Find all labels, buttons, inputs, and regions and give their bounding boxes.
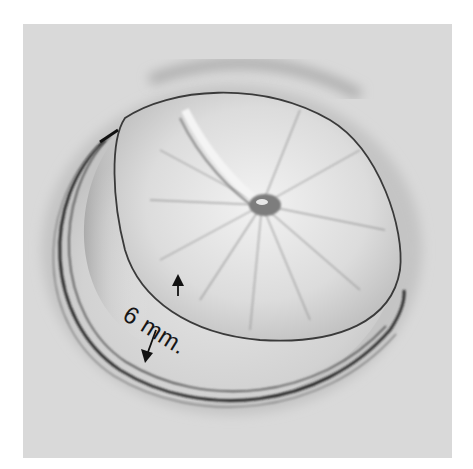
disc-hub <box>249 194 281 216</box>
hub-highlight <box>256 199 268 205</box>
valve-illustration <box>0 0 473 469</box>
